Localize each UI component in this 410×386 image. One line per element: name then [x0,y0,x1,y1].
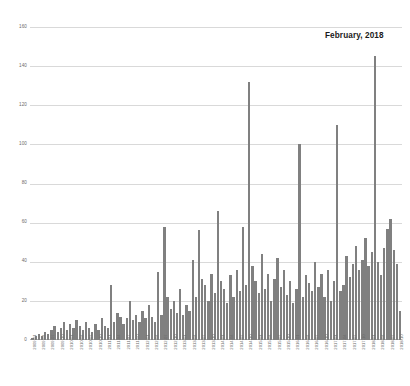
bar [157,272,159,340]
x-axis-tick-labels: 2009-012009-022009-032009-042009-052009-… [30,342,402,386]
bar-chart: 020406080100120140160 2009-012009-022009… [0,0,410,386]
bar [308,283,310,340]
bar [393,250,395,340]
y-tick-label: 120 [5,103,27,108]
bar [320,274,322,341]
bar [210,274,212,341]
y-tick-label: 160 [5,25,27,30]
bar [66,330,68,340]
bar [396,264,398,340]
bar [342,285,344,340]
bar [261,254,263,340]
bar [286,295,288,340]
bar [355,246,357,340]
bar [314,262,316,340]
bar [361,260,363,340]
bar [276,258,278,340]
bar [386,229,388,341]
bar [204,285,206,340]
bar [151,317,153,340]
bar [345,256,347,340]
bar [207,301,209,340]
bar [377,262,379,340]
bar [38,334,40,340]
bar [380,275,382,340]
bar [311,291,313,340]
bar [217,211,219,340]
bar [141,311,143,340]
bar [132,320,134,340]
bar [305,275,307,340]
x-tick-slot: 2018-10 [398,342,401,386]
bar [170,309,172,340]
bar [236,270,238,340]
bar [280,287,282,340]
bar [229,275,231,340]
bar [302,297,304,340]
bar [289,281,291,340]
bar [258,293,260,340]
bar [317,287,319,340]
bar [352,264,354,340]
bar [364,238,366,340]
bar [239,291,241,340]
y-tick-label: 40 [5,259,27,264]
bar [389,219,391,340]
bar [283,270,285,340]
plot-area [30,27,402,340]
bar [201,279,203,340]
bar [383,248,385,340]
bar [295,289,297,340]
bar [179,289,181,340]
bar-series [30,27,402,340]
bar [94,324,96,340]
bar [248,82,250,340]
bar [267,274,269,341]
bar [57,332,59,340]
bar [223,289,225,340]
bar [336,125,338,340]
y-tick-label: 20 [5,299,27,304]
bar [273,279,275,340]
bar [198,230,200,340]
bar [85,322,87,340]
bar [242,227,244,340]
bar [339,291,341,340]
x-tick-label: 2018-10 [400,334,404,349]
y-tick-label: 140 [5,64,27,69]
bar [367,266,369,340]
bar [192,260,194,340]
bar [333,281,335,340]
bar [251,266,253,340]
peak-annotation-label: February, 2018 [325,31,384,40]
bar [220,281,222,340]
y-tick-label: 80 [5,181,27,186]
bar [358,270,360,340]
bar [188,311,190,340]
y-tick-label: 0 [5,338,27,343]
bar [245,285,247,340]
bar [122,324,124,340]
bar [374,56,376,340]
bar [75,320,77,340]
bar [104,326,106,340]
bar [110,285,112,340]
bar [371,252,373,340]
y-tick-label: 60 [5,220,27,225]
bar [254,281,256,340]
bar [298,144,300,340]
bar [163,227,165,340]
bar [330,301,332,340]
y-tick-label: 100 [5,142,27,147]
bar [327,270,329,340]
bar [264,289,266,340]
bar [214,293,216,340]
bar [349,277,351,340]
